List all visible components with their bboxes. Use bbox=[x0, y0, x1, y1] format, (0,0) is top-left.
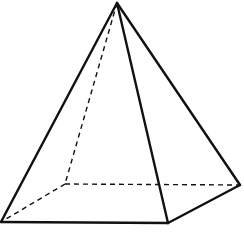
hidden-edges bbox=[1, 3, 240, 222]
edge-front-right-to-back-right bbox=[168, 185, 240, 223]
edge-front-left-to-front-right bbox=[1, 222, 168, 223]
edge-apex-to-front-right bbox=[117, 3, 168, 223]
hidden-edge-back-left-to-back-right bbox=[65, 184, 240, 185]
hidden-edge-apex-to-back-left bbox=[65, 3, 117, 184]
edge-apex-to-back-right bbox=[117, 3, 240, 185]
edge-apex-to-front-left bbox=[1, 3, 117, 222]
visible-edges bbox=[1, 3, 240, 223]
square-pyramid-diagram bbox=[0, 0, 244, 232]
